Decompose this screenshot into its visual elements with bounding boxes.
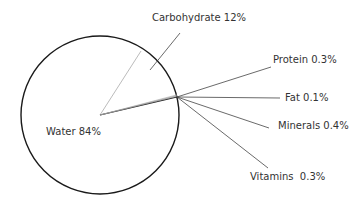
leader-vitamins [177, 97, 268, 168]
label-minerals: Minerals 0.4% [278, 120, 349, 131]
leader-minerals [177, 97, 269, 128]
pie-chart: Water 84% Carbohydrate 12% Protein 0.3% … [0, 0, 364, 204]
label-water: Water 84% [46, 126, 101, 137]
label-protein: Protein 0.3% [273, 54, 337, 65]
label-carbohydrate: Carbohydrate 12% [152, 12, 246, 23]
label-fat: Fat 0.1% [285, 92, 328, 103]
leader-fat [177, 97, 280, 98]
label-vitamins: Vitamins 0.3% [250, 171, 325, 182]
leader-protein [177, 67, 271, 97]
leader-carbohydrate [150, 33, 180, 70]
